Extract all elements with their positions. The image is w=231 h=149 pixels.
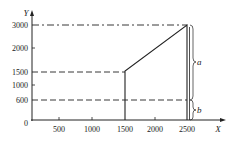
y-tick-label-1000: 1000 <box>12 81 28 90</box>
y-axis-label: Y <box>23 8 29 18</box>
x-tick-label-500: 500 <box>53 125 65 134</box>
brace-label-a: a <box>197 57 202 67</box>
x-axis-label: X <box>214 124 221 134</box>
y-tick-label-2000: 2000 <box>12 44 28 53</box>
y-axis-arrow-icon <box>30 10 34 16</box>
y-tick-label-3000: 3000 <box>12 21 28 30</box>
brace-b <box>190 100 196 120</box>
brace-a <box>190 25 196 100</box>
x-tick-label-1000: 1000 <box>84 125 100 134</box>
chart: 3000 2000 1500 1000 600 0 500 1000 1500 … <box>0 0 231 149</box>
x-tick-label-2500: 2500 <box>179 125 195 134</box>
x-axis-arrow-icon <box>220 118 226 122</box>
brace-label-b: b <box>197 105 202 115</box>
x-tick-label-2000: 2000 <box>147 125 163 134</box>
y-tick-label-1500: 1500 <box>12 68 28 77</box>
y-tick-label-600: 600 <box>16 96 28 105</box>
origin-label: 0 <box>24 119 28 128</box>
x-tick-label-1500: 1500 <box>117 125 133 134</box>
data-curve <box>125 25 187 120</box>
